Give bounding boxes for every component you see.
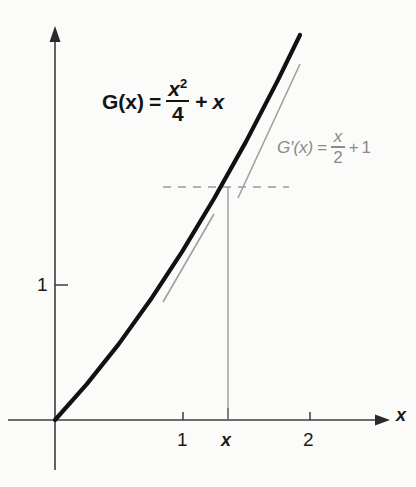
graph-figure — [0, 0, 416, 487]
derivative-formula-lhs: G′(x) — [277, 139, 313, 156]
x-tick-label-1: 1 — [177, 430, 188, 449]
main-formula-fraction: x2 4 — [166, 78, 189, 124]
derivative-formula-fraction: x 2 — [331, 128, 344, 166]
derivative-formula-plus: + — [349, 139, 359, 156]
main-formula-lhs: G(x) — [102, 91, 144, 112]
derivative-formula-trailing-term: 1 — [362, 139, 371, 156]
x-tick-label-2: 2 — [303, 430, 314, 449]
derivative-formula-numerator: x — [332, 128, 345, 146]
main-formula-numerator: x2 — [166, 78, 189, 100]
x-tick-label-x: x — [221, 431, 231, 449]
main-formula-trailing-term: x — [212, 91, 224, 112]
main-formula-label: G(x) = x2 4 + x — [102, 78, 224, 124]
y-tick-label-1: 1 — [37, 275, 48, 294]
main-formula-denominator: 4 — [170, 102, 186, 124]
derivative-formula-equals: = — [317, 139, 327, 156]
main-formula-exponent: 2 — [180, 76, 187, 91]
main-formula-plus: + — [195, 91, 207, 112]
main-formula-equals: = — [149, 91, 161, 112]
x-axis-label: x — [396, 406, 406, 424]
derivative-formula-label: G′(x) = x 2 + 1 — [277, 128, 371, 166]
derivative-formula-denominator: 2 — [331, 148, 344, 166]
